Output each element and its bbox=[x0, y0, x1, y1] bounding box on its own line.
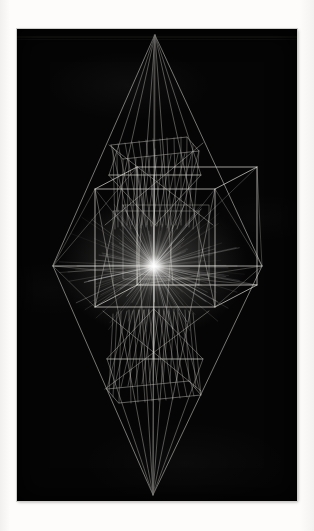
artwork-page bbox=[0, 0, 314, 531]
wireframe-plot-svg bbox=[17, 29, 297, 501]
burst-core bbox=[151, 263, 156, 268]
print-plate bbox=[17, 29, 297, 501]
